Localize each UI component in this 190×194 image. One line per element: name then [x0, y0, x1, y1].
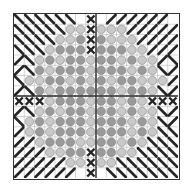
backslash-stitch-icon: [118, 159, 126, 167]
medium-circle-icon: [97, 138, 106, 147]
backslash-stitch-icon: [169, 148, 177, 156]
backslash-stitch-icon: [148, 148, 156, 156]
light-circle-icon: [76, 25, 85, 34]
forwardslash-stitch-icon: [15, 87, 23, 95]
light-circle-icon: [148, 87, 157, 96]
medium-circle-icon: [66, 128, 75, 137]
forwardslash-stitch-icon: [138, 25, 146, 33]
light-circle-icon: [56, 148, 65, 157]
backslash-stitch-icon: [25, 36, 33, 44]
light-circle-icon: [56, 35, 65, 44]
light-circle-icon: [128, 66, 137, 75]
light-circle-icon: [56, 107, 65, 116]
backslash-stitch-icon: [159, 107, 167, 115]
medium-circle-icon: [97, 148, 106, 157]
backslash-stitch-icon: [15, 25, 23, 33]
medium-circle-icon: [76, 148, 85, 157]
forwardslash-stitch-icon: [148, 46, 156, 54]
backslash-stitch-icon: [107, 169, 115, 177]
medium-circle-icon: [128, 56, 137, 65]
backslash-stitch-icon: [25, 107, 33, 115]
medium-circle-icon: [76, 97, 85, 106]
backslash-stitch-icon: [25, 87, 33, 95]
light-circle-icon: [117, 56, 126, 65]
medium-circle-icon: [35, 66, 44, 75]
medium-circle-icon: [107, 97, 116, 106]
light-circle-icon: [107, 35, 116, 44]
light-circle-icon: [148, 76, 157, 85]
light-circle-icon: [46, 117, 55, 126]
light-circle-icon: [46, 97, 55, 106]
backslash-stitch-icon: [169, 169, 177, 177]
backslash-stitch-icon: [148, 169, 156, 177]
backslash-stitch-icon: [118, 169, 126, 177]
backslash-stitch-icon: [159, 118, 167, 126]
medium-circle-icon: [35, 117, 44, 126]
backslash-stitch-icon: [25, 25, 33, 33]
light-circle-icon: [35, 138, 44, 147]
medium-circle-icon: [97, 117, 106, 126]
medium-circle-icon: [107, 128, 116, 137]
forwardslash-stitch-icon: [15, 148, 23, 156]
medium-circle-icon: [66, 107, 75, 116]
backslash-stitch-icon: [46, 25, 54, 33]
backslash-stitch-icon: [25, 56, 33, 64]
light-circle-icon: [46, 87, 55, 96]
backslash-stitch-icon: [36, 46, 44, 54]
backslash-stitch-icon: [25, 15, 33, 23]
backslash-stitch-icon: [148, 159, 156, 167]
backslash-stitch-icon: [15, 118, 23, 126]
medium-circle-icon: [76, 128, 85, 137]
forwardslash-stitch-icon: [169, 107, 177, 115]
backslash-stitch-icon: [159, 66, 167, 74]
forwardslash-stitch-icon: [56, 169, 64, 177]
backslash-stitch-icon: [128, 159, 136, 167]
medium-circle-icon: [107, 66, 116, 75]
light-circle-icon: [117, 87, 126, 96]
medium-circle-icon: [46, 107, 55, 116]
medium-circle-icon: [76, 107, 85, 116]
forwardslash-stitch-icon: [15, 169, 23, 177]
forwardslash-stitch-icon: [25, 138, 33, 146]
backslash-stitch-icon: [25, 66, 33, 74]
backslash-stitch-icon: [46, 36, 54, 44]
forwardslash-stitch-icon: [159, 36, 167, 44]
medium-circle-icon: [56, 66, 65, 75]
backslash-stitch-icon: [159, 148, 167, 156]
light-circle-icon: [117, 138, 126, 147]
light-circle-icon: [148, 66, 157, 75]
medium-circle-icon: [87, 87, 96, 96]
light-circle-icon: [128, 148, 137, 157]
light-circle-icon: [66, 158, 75, 167]
medium-circle-icon: [46, 56, 55, 65]
backslash-stitch-icon: [46, 15, 54, 23]
light-circle-icon: [128, 128, 137, 137]
forwardslash-stitch-icon: [159, 25, 167, 33]
medium-circle-icon: [107, 138, 116, 147]
forwardslash-stitch-icon: [138, 36, 146, 44]
light-circle-icon: [148, 117, 157, 126]
medium-circle-icon: [117, 46, 126, 55]
light-circle-icon: [117, 35, 126, 44]
forwardslash-stitch-icon: [15, 56, 23, 64]
light-circle-icon: [117, 107, 126, 116]
forwardslash-stitch-icon: [15, 138, 23, 146]
backslash-stitch-icon: [15, 46, 23, 54]
light-circle-icon: [87, 107, 96, 116]
light-circle-icon: [138, 76, 147, 85]
medium-circle-icon: [107, 107, 116, 116]
light-circle-icon: [87, 76, 96, 85]
medium-circle-icon: [76, 66, 85, 75]
forwardslash-stitch-icon: [169, 36, 177, 44]
medium-circle-icon: [117, 66, 126, 75]
backslash-stitch-icon: [159, 128, 167, 136]
backslash-stitch-icon: [128, 169, 136, 177]
backslash-stitch-icon: [169, 159, 177, 167]
light-circle-icon: [76, 138, 85, 147]
light-circle-icon: [117, 97, 126, 106]
medium-circle-icon: [76, 56, 85, 65]
medium-circle-icon: [66, 117, 75, 126]
medium-circle-icon: [128, 138, 137, 147]
backslash-stitch-icon: [15, 15, 23, 23]
forwardslash-stitch-icon: [66, 169, 74, 177]
